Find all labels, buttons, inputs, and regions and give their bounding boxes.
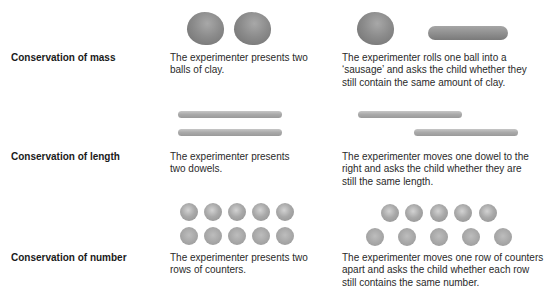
desc-line: The experimenter moves one dowel to the <box>342 151 529 163</box>
initial-description-length: The experimenter presents two dowels. <box>170 151 290 176</box>
transformed-description-length: The experimenter moves one dowel to the … <box>342 151 529 188</box>
counter-icon <box>180 203 198 221</box>
counter-icon <box>276 203 294 221</box>
desc-line: The experimenter presents two <box>170 252 308 264</box>
counter-icon <box>462 228 480 246</box>
counter-icon <box>180 227 198 245</box>
counter-icon <box>204 227 222 245</box>
desc-line: ‘sausage’ and asks the child whether the… <box>342 64 527 76</box>
initial-description-number: The experimenter presents two rows of co… <box>170 252 308 277</box>
clay-ball-icon <box>357 12 394 45</box>
counter-icon <box>405 204 423 222</box>
counter-icon <box>228 227 246 245</box>
counter-icon <box>366 228 384 246</box>
counter-icon <box>430 228 448 246</box>
counter-icon <box>381 204 399 222</box>
desc-line: rows of counters. <box>170 264 308 276</box>
desc-line: still contain the same amount of clay. <box>342 77 527 89</box>
counter-icon <box>454 204 472 222</box>
desc-line: The experimenter rolls one ball into a <box>342 52 527 64</box>
row-label-length: Conservation of length <box>11 151 120 162</box>
desc-line: apart and asks the child whether each ro… <box>342 264 543 276</box>
counter-icon <box>252 227 270 245</box>
dowel-icon <box>178 111 282 118</box>
desc-line: The experimenter presents two <box>170 52 308 64</box>
transformed-description-number: The experimenter moves one row of counte… <box>342 252 543 289</box>
initial-description-mass: The experimenter presents two balls of c… <box>170 52 308 77</box>
counter-icon <box>276 227 294 245</box>
clay-ball-icon <box>234 12 271 45</box>
dowel-icon <box>178 129 282 136</box>
counter-icon <box>494 228 512 246</box>
dowel-shifted-icon <box>414 129 518 136</box>
counter-icon <box>228 203 246 221</box>
desc-line: right and asks the child whether they ar… <box>342 163 529 175</box>
clay-ball-icon <box>187 12 224 45</box>
row-label-mass: Conservation of mass <box>11 52 115 63</box>
dowel-icon <box>358 111 462 118</box>
desc-line: still contains the same number. <box>342 277 543 289</box>
desc-line: balls of clay. <box>170 64 308 76</box>
row-label-number: Conservation of number <box>11 252 127 263</box>
desc-line: two dowels. <box>170 163 290 175</box>
clay-sausage-icon <box>428 26 508 40</box>
counter-icon <box>252 203 270 221</box>
counter-icon <box>204 203 222 221</box>
transformed-description-mass: The experimenter rolls one ball into a ‘… <box>342 52 527 89</box>
counter-icon <box>430 204 448 222</box>
counter-icon <box>398 228 416 246</box>
desc-line: The experimenter moves one row of counte… <box>342 252 543 264</box>
desc-line: The experimenter presents <box>170 151 290 163</box>
counter-icon <box>479 204 497 222</box>
desc-line: still the same length. <box>342 176 529 188</box>
